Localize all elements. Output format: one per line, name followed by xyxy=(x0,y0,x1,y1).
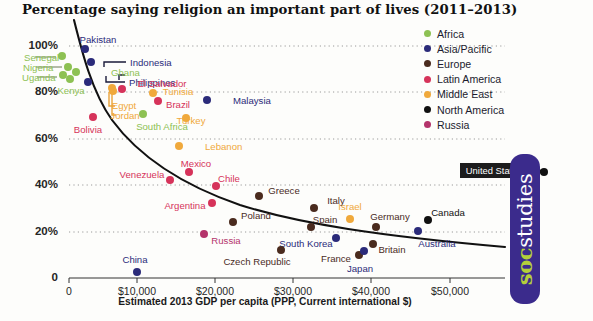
data-point-pakistan[interactable] xyxy=(81,45,89,53)
data-label-indonesia: Indonesia xyxy=(130,57,172,68)
data-label-south-korea: South Korea xyxy=(279,238,332,249)
data-point-nigeria[interactable] xyxy=(64,63,72,71)
data-point-kenya[interactable] xyxy=(66,75,74,83)
data-point-israel[interactable] xyxy=(346,215,354,223)
data-point-south-korea[interactable] xyxy=(332,234,340,242)
data-point-poland[interactable] xyxy=(229,218,237,226)
data-label-chile: Chile xyxy=(218,173,240,184)
data-label-china: China xyxy=(122,254,147,265)
data-point-britain[interactable] xyxy=(369,240,377,248)
data-point-philippines[interactable] xyxy=(84,78,92,86)
data-point-brazil[interactable] xyxy=(154,97,162,105)
data-label-malaysia: Malaysia xyxy=(233,95,271,106)
data-label-israel: Israel xyxy=(338,201,361,212)
data-label-jordan: Jordan xyxy=(110,110,139,121)
data-label-pakistan: Pakistan xyxy=(80,34,117,45)
data-label-south-africa: South Africa xyxy=(136,121,188,132)
data-label-greece: Greece xyxy=(268,185,299,196)
data-point-ghana[interactable] xyxy=(72,68,80,76)
data-point-south-africa[interactable] xyxy=(139,110,147,118)
data-point-mexico[interactable] xyxy=(185,168,193,176)
data-label-russia: Russia xyxy=(211,235,240,246)
data-point-united-states[interactable] xyxy=(540,168,548,176)
data-label-australia: Australia xyxy=(418,238,455,249)
data-point-china[interactable] xyxy=(133,268,141,276)
data-point-germany[interactable] xyxy=(372,223,380,231)
data-point-indonesia[interactable] xyxy=(87,58,95,66)
data-label-germany: Germany xyxy=(370,211,409,222)
data-point-italy[interactable] xyxy=(310,204,318,212)
data-point-bolivia[interactable] xyxy=(89,113,97,121)
data-label-lebanon: Lebanon xyxy=(205,141,242,152)
data-label-britain: Britain xyxy=(378,244,405,255)
data-point-lebanon[interactable] xyxy=(175,142,183,150)
data-label-kenya: Kenya xyxy=(57,85,84,96)
data-point-argentina[interactable] xyxy=(208,199,216,207)
data-point-australia[interactable] xyxy=(414,227,422,235)
data-label-czech-republic: Czech Republic xyxy=(223,256,290,267)
data-label-brazil: Brazil xyxy=(166,99,190,110)
data-label-japan: Japan xyxy=(347,263,373,274)
data-label-tunisia: Tunisia xyxy=(163,86,194,97)
data-label-poland: Poland xyxy=(241,210,271,221)
data-label-mexico: Mexico xyxy=(181,158,211,169)
data-label-argentina: Argentina xyxy=(164,200,205,211)
data-point-malaysia[interactable] xyxy=(203,96,211,104)
data-label-uganda: Uganda xyxy=(22,72,56,83)
data-point-japan[interactable] xyxy=(360,247,368,255)
data-label-bolivia: Bolivia xyxy=(74,124,102,135)
data-point-jordan[interactable] xyxy=(109,87,117,95)
data-point-greece[interactable] xyxy=(255,192,263,200)
chart-root: Percentage saying religion an important … xyxy=(0,0,593,321)
data-label-venezuela: Venezuela xyxy=(120,169,165,180)
data-point-russia[interactable] xyxy=(200,230,208,238)
data-point-czech-republic[interactable] xyxy=(277,246,285,254)
badge-studies-text: studies xyxy=(514,173,538,247)
data-point-venezuela[interactable] xyxy=(166,176,174,184)
data-point-tunisia[interactable] xyxy=(149,89,157,97)
data-point-el-salvador[interactable] xyxy=(118,85,126,93)
data-label-spain: Spain xyxy=(313,214,338,225)
badge-soc-text: soc xyxy=(513,247,538,285)
data-label-canada: Canada xyxy=(431,207,465,218)
data-point-layer: SenegalNigeriaUgandaKenyaGhanaPakistanIn… xyxy=(0,0,593,321)
socstudies-badge: socstudies xyxy=(510,154,540,304)
